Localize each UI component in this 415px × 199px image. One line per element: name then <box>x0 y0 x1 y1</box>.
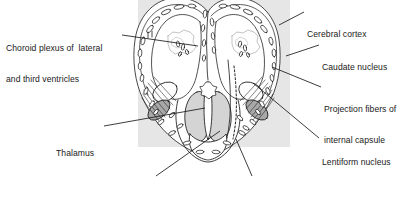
plane-of-subsequent-fusion-line <box>233 66 236 139</box>
choroid-villi-left <box>176 41 189 57</box>
choroid-plexus-right <box>232 30 260 54</box>
leader-hypothalamus <box>156 131 220 176</box>
leader-projection-fibers <box>272 67 321 87</box>
label-choroid-plexus-line1: Choroid plexus of lateral <box>6 43 102 53</box>
label-plane-of-fusion: Plane of subsequent fusion <box>196 182 301 199</box>
label-thalamus: Thalamus <box>56 127 94 179</box>
lentiform-nucleus-right <box>242 96 272 124</box>
lateral-ventricle-right <box>215 15 265 100</box>
leader-anchor-ticks <box>148 31 152 38</box>
label-cerebral-cortex-line1: Cerebral cortex <box>307 29 367 39</box>
lateral-ventricle-left <box>152 15 202 100</box>
leader-lines <box>104 12 321 176</box>
lentiform-nucleus-left <box>144 96 174 124</box>
projection-fibers-left <box>142 77 176 122</box>
third-ventricle <box>204 82 212 140</box>
hypothalamus <box>189 134 227 160</box>
thalamus-left <box>185 91 208 141</box>
choroid-villi-right <box>238 41 250 58</box>
caudate-nucleus-right <box>235 78 266 106</box>
label-lentiform-nucleus-line1: Lentiform nucleus <box>322 157 391 167</box>
choroid-plexus-left <box>168 30 196 54</box>
label-hypothalamus: Hypothalamus <box>89 182 145 199</box>
label-caudate-nucleus-line1: Caudate nucleus <box>322 62 387 72</box>
label-projection-fibers-line1: Projection fibers of <box>324 104 396 114</box>
leader-plane-of-fusion <box>236 139 252 176</box>
label-thalamus-line1: Thalamus <box>56 148 94 158</box>
leader-thalamus <box>104 108 205 126</box>
cortex-inner-line-left <box>139 4 205 95</box>
thalamus-right <box>208 91 231 141</box>
figure-background-panel <box>138 0 290 147</box>
figure-container: Choroid plexus of lateral and third vent… <box>0 0 415 199</box>
caudate-nucleus-left <box>149 78 180 106</box>
diencephalon-base-outline <box>176 100 240 162</box>
midline-septum <box>227 60 230 138</box>
cerebral-cortex-outline <box>134 0 280 155</box>
interhemispheric-fissure <box>207 12 208 80</box>
third-ventricle-choroid-plexus <box>200 82 217 99</box>
label-choroid-plexus: Choroid plexus of lateral and third vent… <box>6 22 102 105</box>
leader-cerebral-cortex <box>279 12 304 25</box>
label-lentiform-nucleus: Lentiform nucleus <box>322 136 391 188</box>
surface-vessels <box>138 4 276 154</box>
leader-lentiform-nucleus <box>253 83 319 138</box>
leader-choroid-plexus <box>122 35 198 46</box>
projection-fibers-right <box>240 77 274 122</box>
cortex-inner-line-right <box>211 4 277 95</box>
label-choroid-plexus-line2: and third ventricles <box>6 74 102 84</box>
